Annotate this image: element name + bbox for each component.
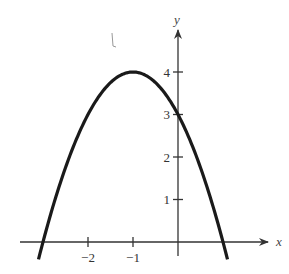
x-ticks: −2−1	[81, 237, 140, 265]
parabola-curve	[39, 72, 228, 259]
stray-pen-mark	[112, 33, 116, 47]
x-tick-label: −2	[81, 250, 95, 265]
parabola-chart: −2−1 1234 x y	[0, 0, 289, 274]
y-tick-label: 4	[164, 65, 171, 80]
y-tick-label: 1	[164, 192, 171, 207]
x-axis-label: x	[275, 234, 282, 249]
y-axis-label: y	[172, 12, 180, 27]
y-tick-label: 2	[164, 150, 171, 165]
x-tick-label: −1	[126, 250, 140, 265]
y-ticks: 1234	[164, 65, 184, 208]
y-tick-label: 3	[164, 107, 171, 122]
